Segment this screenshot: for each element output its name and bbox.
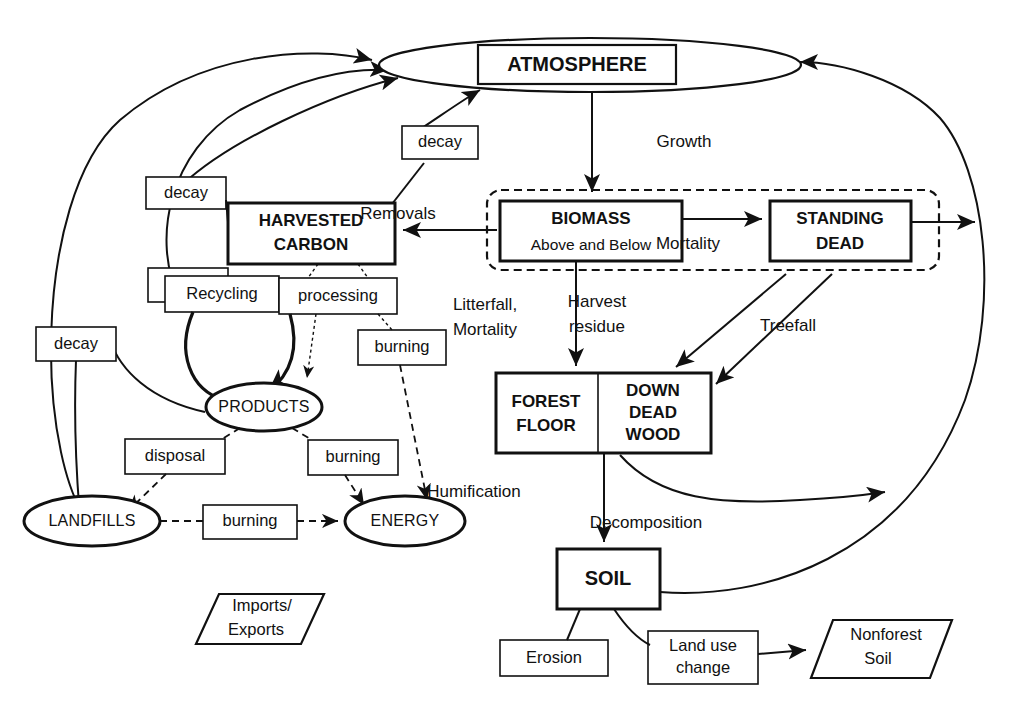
harvested-carbon-label-2: CARBON [274, 235, 349, 254]
products-label: PRODUCTS [218, 398, 309, 415]
disposal-label: disposal [145, 446, 206, 464]
edge-soil-to-land-use-change [614, 609, 650, 645]
edge-harvested-to-processing [308, 264, 318, 278]
energy-label: ENERGY [371, 512, 440, 529]
land-use-change-label-1: Land use [669, 636, 737, 654]
biomass-sublabel: Above and Below [531, 236, 652, 253]
edge-decay-harvest-left-to-atmosphere [182, 78, 398, 185]
burning-label-processing: burning [374, 337, 429, 355]
recycling-label: Recycling [186, 284, 258, 302]
edge-processing-to-products [307, 314, 316, 378]
forest-floor-label-1: FOREST [512, 392, 582, 411]
edge-burning-processing-to-energy [400, 365, 427, 500]
imports-exports-label-2: Exports [228, 620, 284, 638]
flow-label-mortality: Mortality [656, 234, 721, 253]
flow-label-growth: Growth [657, 132, 712, 151]
edge-recycling-loop-to-products [186, 312, 224, 400]
decay-label-harvested-top: decay [418, 132, 463, 150]
decay-label-landfills: decay [54, 334, 99, 352]
edge-burning-products-to-energy [345, 475, 364, 505]
burning-label-landfills: burning [222, 511, 277, 529]
flow-label-harvest-2: residue [569, 317, 625, 336]
flow-label-humification: Humification [427, 482, 521, 501]
flow-label-removals: Removals [360, 204, 436, 223]
nonforest-soil-label-1: Nonforest [850, 625, 922, 643]
land-use-change-label-2: change [676, 658, 730, 676]
forest-floor-label-2: FLOOR [516, 416, 576, 435]
flow-label-decomposition: Decomposition [590, 513, 702, 532]
edge-recycling-arrow-to-products [268, 314, 294, 392]
edge-products-to-decay-box [110, 340, 205, 412]
edge-land-use-change-to-nonforest-soil [758, 650, 806, 654]
harvested-carbon-label-1: HARVESTED [259, 211, 364, 230]
nonforest-soil-label-2: Soil [864, 649, 892, 667]
flow-label-litterfall-1: Litterfall, [453, 295, 517, 314]
edge-harvested-to-decay-top [392, 163, 424, 204]
standing-dead-label-2: DEAD [816, 234, 864, 253]
edge-landfills-to-decay [75, 360, 80, 518]
biomass-label: BIOMASS [551, 209, 630, 228]
edge-decay-harvest-top-to-atmosphere [422, 90, 480, 128]
erosion-label: Erosion [526, 648, 582, 666]
landfills-label: LANDFILLS [48, 512, 135, 529]
standing-dead-label-1: STANDING [796, 209, 884, 228]
edge-soil-to-erosion [567, 609, 580, 640]
soil-label: SOIL [585, 567, 632, 589]
flow-label-litterfall-2: Mortality [453, 320, 518, 339]
imports-exports-label-1: Imports/ [232, 596, 292, 614]
decay-label-harvested-left: decay [164, 183, 209, 201]
flow-label-treefall: Treefall [760, 316, 816, 335]
flow-label-harvest-1: Harvest [568, 292, 627, 311]
carbon-cycle-diagram: ATMOSPHERE Growth BIOMASS Above and Belo… [0, 0, 1015, 715]
down-dead-wood-label-2: DEAD [629, 403, 677, 422]
edge-decomposition-to-right-curve [620, 455, 885, 502]
down-dead-wood-label-1: DOWN [626, 381, 680, 400]
atmosphere-label: ATMOSPHERE [507, 53, 647, 75]
edge-processing-to-burning-box [378, 314, 392, 330]
edge-products-to-disposal [222, 428, 240, 439]
edge-harvested-to-burning-processing [358, 264, 368, 278]
processing-label: processing [298, 286, 378, 304]
down-dead-wood-label-3: WOOD [626, 425, 681, 444]
diagram-canvas: ATMOSPHERE Growth BIOMASS Above and Belo… [0, 0, 1015, 715]
burning-label-products: burning [325, 447, 380, 465]
edge-products-to-burning [292, 428, 312, 440]
